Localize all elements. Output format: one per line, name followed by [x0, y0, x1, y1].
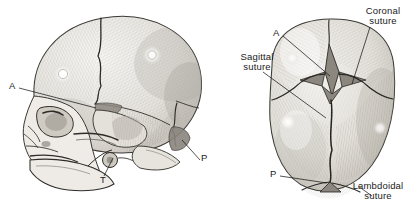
label-lateral-temporal-fontanelle: T: [100, 175, 106, 185]
label-lateral-anterior-fontanelle: A: [9, 81, 16, 91]
lateral-skull-view: [19, 8, 218, 191]
leader-lateral-posterior: [182, 140, 200, 160]
ossification-centre-parietal: [142, 45, 162, 65]
label-coronal-suture: Coronal suture: [352, 6, 414, 27]
superior-skull-view: [263, 12, 408, 207]
label-superior-posterior-fontanelle: P: [270, 169, 277, 179]
label-sagittal-suture: Sagittal suture: [225, 52, 289, 73]
label-superior-anterior-fontanelle: A: [273, 28, 280, 38]
label-lateral-posterior-fontanelle: P: [201, 153, 208, 163]
label-lambdoidal-suture: Lambdoidal suture: [343, 181, 413, 202]
anatomy-figure: A T P A P Coronal suture Sagittal suture…: [0, 0, 416, 217]
ossification-centre-frontal: [52, 63, 74, 85]
